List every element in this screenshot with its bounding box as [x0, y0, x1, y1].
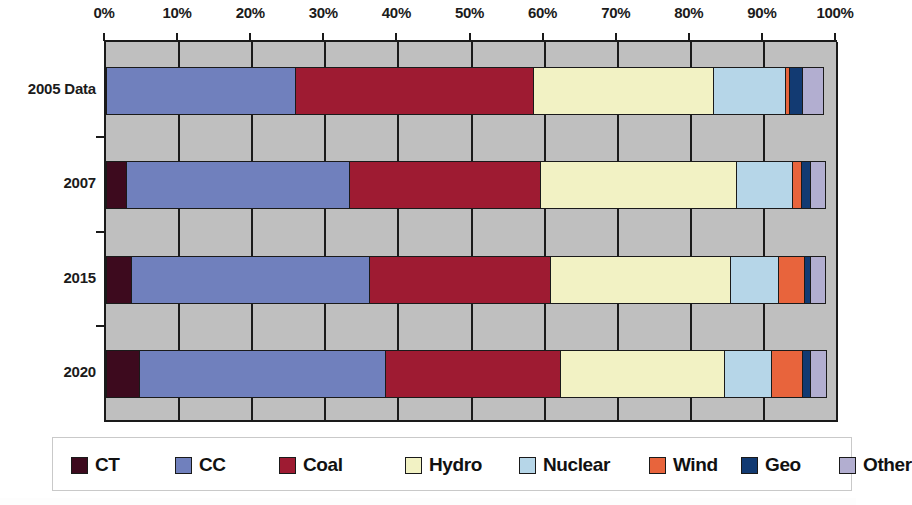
bar-segment-cc [126, 161, 350, 209]
bar-segment-nuclear [713, 67, 786, 115]
legend-label: Hydro [429, 454, 482, 476]
x-axis-tick-label: 90% [747, 4, 776, 21]
x-axis-tick-label: 40% [382, 4, 411, 21]
x-axis-tick-label: 70% [601, 4, 630, 21]
x-axis-tick-label: 20% [236, 4, 265, 21]
legend-item-cc[interactable]: CC [175, 454, 226, 476]
bar-segment-cc [106, 67, 297, 115]
legend-swatch-icon [175, 457, 192, 474]
bar-segment-nuclear [724, 350, 772, 398]
legend-item-wind[interactable]: Wind [649, 454, 718, 476]
legend-label: Geo [765, 454, 801, 476]
y-axis-category-label: 2007 [0, 174, 96, 191]
bar-segment-other [810, 161, 827, 209]
legend-label: Coal [303, 454, 343, 476]
legend-label: Other [863, 454, 912, 476]
legend-item-coal[interactable]: Coal [279, 454, 343, 476]
bar-segment-coal [295, 67, 534, 115]
legend-swatch-icon [649, 457, 666, 474]
plot-bottom-axis-line [104, 420, 837, 422]
y-axis-category-label: 2015 [0, 269, 96, 286]
bar-segment-hydro [550, 256, 731, 304]
bar-segment-ct [106, 350, 140, 398]
bar-segment-hydro [533, 67, 715, 115]
legend-swatch-icon [71, 457, 88, 474]
legend-label: CC [199, 454, 226, 476]
bar-segment-hydro [560, 350, 726, 398]
bar-segment-other [802, 67, 825, 115]
legend-label: Wind [673, 454, 718, 476]
bar-segment-cc [131, 256, 371, 304]
bar-row [106, 256, 826, 304]
legend-label: CT [95, 454, 120, 476]
chart-legend: CTCCCoalHydroNuclearWindGeoOther [52, 437, 852, 491]
legend-item-nuclear[interactable]: Nuclear [519, 454, 610, 476]
x-axis-tick-label: 0% [93, 4, 114, 21]
legend-item-ct[interactable]: CT [71, 454, 120, 476]
legend-item-geo[interactable]: Geo [741, 454, 801, 476]
bar-segment-other [810, 350, 827, 398]
x-axis-tick-labels: 0%10%20%30%40%50%60%70%80%90%100% [0, 4, 856, 26]
y-axis-category-label: 2005 Data [0, 80, 96, 97]
legend-swatch-icon [405, 457, 422, 474]
x-axis-tick-label: 100% [816, 4, 853, 21]
x-axis-tick-label: 30% [309, 4, 338, 21]
bar-segment-hydro [540, 161, 737, 209]
legend-item-hydro[interactable]: Hydro [405, 454, 482, 476]
x-axis-tick-label: 80% [674, 4, 703, 21]
x-axis-tick-label: 50% [455, 4, 484, 21]
bar-segment-ct [106, 256, 132, 304]
legend-swatch-icon [519, 457, 536, 474]
bar-segment-nuclear [730, 256, 780, 304]
plot-area [104, 40, 837, 422]
legend-swatch-icon [279, 457, 296, 474]
bar-segment-nuclear [736, 161, 794, 209]
bar-segment-coal [385, 350, 561, 398]
legend-label: Nuclear [543, 454, 610, 476]
bar-segment-wind [778, 256, 805, 304]
bar-segment-coal [349, 161, 541, 209]
y-axis-category-label: 2020 [0, 363, 96, 380]
bar-row [106, 67, 824, 115]
bar-segment-ct [106, 161, 128, 209]
bar-row [106, 350, 827, 398]
legend-item-other[interactable]: Other [839, 454, 912, 476]
legend-swatch-icon [741, 457, 758, 474]
page-edge [0, 498, 856, 505]
bar-segment-other [810, 256, 825, 304]
x-axis-tick-label: 60% [528, 4, 557, 21]
legend-swatch-icon [839, 457, 856, 474]
x-axis-tick-label: 10% [163, 4, 192, 21]
gridline [836, 42, 838, 422]
bar-segment-coal [369, 256, 552, 304]
bar-segment-cc [139, 350, 387, 398]
bar-segment-wind [771, 350, 803, 398]
bar-row [106, 161, 826, 209]
